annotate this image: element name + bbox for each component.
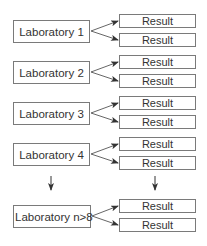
arrow-icon [92,206,118,216]
branch-arrows [91,21,118,225]
continuation-arrows [51,176,155,190]
arrow-icon [91,62,118,72]
arrow-icon [92,216,118,225]
arrow-icon [91,113,118,122]
arrow-icon [91,72,118,81]
arrow-icon [91,144,118,154]
arrow-icon [91,154,118,163]
arrow-icon [91,21,118,31]
arrows-layer [0,0,207,246]
arrow-icon [91,103,118,113]
arrow-icon [91,31,118,40]
